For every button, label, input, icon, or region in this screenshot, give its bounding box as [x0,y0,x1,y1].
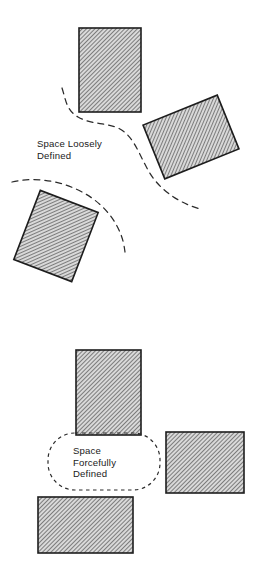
mass-tilted-block-lower-left [14,190,98,281]
caption-space-forcefully-defined: Space Forcefully Defined [73,445,119,479]
caption-line: Defined [37,150,71,161]
caption-line: Space Loosely [37,138,102,149]
mass-upright-block-top [76,350,141,435]
mass-upright-block-right [166,432,244,493]
figure-canvas: Space Loosely Defined Space Forcefully D… [0,0,263,585]
mass-group-forceful [38,350,244,553]
caption-line: Space [73,445,101,456]
caption-space-loosely-defined: Space Loosely Defined [37,138,105,161]
mass-upright-block-top [79,28,141,112]
panel-space-loosely-defined: Space Loosely Defined [12,28,239,282]
panel-space-forcefully-defined: Space Forcefully Defined [38,350,244,553]
mass-upright-block-bottom [38,497,133,553]
architectural-diagram: Space Loosely Defined Space Forcefully D… [0,0,263,585]
mass-tilted-block-right [143,95,239,179]
caption-line: Forcefully [73,457,116,468]
caption-line: Defined [73,468,107,479]
